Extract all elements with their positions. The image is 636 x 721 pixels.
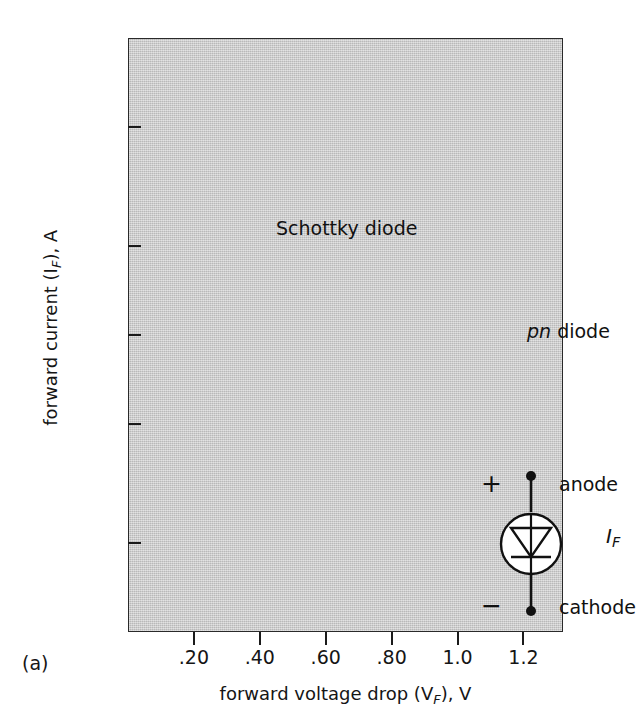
y-tick-mark	[128, 542, 141, 544]
plot-area: Schottky diode pn diode anode cathode + …	[128, 38, 563, 632]
x-tick-label: .20	[159, 648, 229, 667]
x-tick-mark	[391, 632, 393, 645]
cathode-node-dot	[526, 606, 536, 616]
x-tick-label: 1.0	[423, 648, 493, 667]
y-tick-mark	[128, 423, 141, 425]
x-tick-mark	[522, 632, 524, 645]
x-tick-label: 1.2	[488, 648, 558, 667]
x-tick-mark	[325, 632, 327, 645]
y-tick-mark	[128, 334, 141, 336]
y-axis-title-tail: ), A	[40, 230, 61, 261]
annotation-pn-diode: pn diode	[527, 322, 610, 341]
figure-caption: (a)	[22, 652, 48, 674]
diode-schematic	[484, 464, 584, 624]
x-tick-mark	[457, 632, 459, 645]
annotation-schottky-diode: Schottky diode	[276, 219, 417, 238]
y-axis-title-text: forward current (I	[40, 268, 61, 426]
y-axis-title: forward current (IF), A	[40, 163, 64, 493]
anode-node-dot	[526, 471, 536, 481]
annotation-pn-rest: diode	[551, 320, 610, 342]
annotation-forward-current-symbol: IF	[606, 526, 620, 549]
annotation-if-subscript-f: F	[612, 534, 620, 550]
y-tick-mark	[128, 245, 141, 247]
annotation-pn-italic: pn	[527, 320, 551, 342]
x-axis-title-subscript: F	[433, 692, 440, 707]
x-axis-title: forward voltage drop (VF), V	[128, 683, 563, 707]
x-axis-title-tail: ), V	[441, 683, 472, 704]
x-tick-label: .80	[357, 648, 427, 667]
x-tick-label: .40	[225, 648, 295, 667]
y-tick-mark	[128, 126, 141, 128]
x-axis-title-text: forward voltage drop (V	[220, 683, 434, 704]
x-tick-mark	[259, 632, 261, 645]
x-tick-label: .60	[291, 648, 361, 667]
y-axis-title-subscript: F	[49, 261, 64, 268]
x-tick-mark	[193, 632, 195, 645]
